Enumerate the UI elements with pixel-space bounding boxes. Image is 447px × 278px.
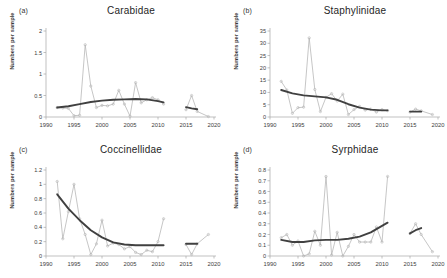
svg-text:1.2: 1.2 — [34, 167, 42, 173]
svg-text:0.3: 0.3 — [258, 221, 266, 227]
svg-text:2005: 2005 — [348, 261, 361, 267]
svg-text:0.6: 0.6 — [34, 210, 42, 216]
chart-panel-coccinellidae: (c) Coccinellidae Numbers per sample 00.… — [0, 139, 223, 278]
plot-area: 00.10.20.30.40.50.60.70.8199019952000200… — [224, 139, 447, 278]
svg-text:0: 0 — [263, 253, 266, 259]
svg-text:1990: 1990 — [264, 261, 277, 267]
svg-text:1990: 1990 — [40, 261, 53, 267]
plot-area: 0510152025303519901995200020052010201520… — [224, 0, 447, 139]
svg-text:2015: 2015 — [404, 122, 417, 128]
svg-text:5: 5 — [263, 102, 266, 108]
svg-text:2020: 2020 — [432, 122, 445, 128]
svg-text:25: 25 — [260, 53, 266, 59]
svg-text:2005: 2005 — [348, 122, 361, 128]
svg-text:2015: 2015 — [180, 261, 193, 267]
svg-text:2000: 2000 — [320, 122, 333, 128]
svg-text:2000: 2000 — [320, 261, 333, 267]
svg-text:2015: 2015 — [180, 122, 193, 128]
figure-panel-grid: (a) Carabidae Numbers per sample 00.511.… — [0, 0, 447, 278]
svg-text:0: 0 — [39, 114, 42, 120]
svg-text:2: 2 — [39, 28, 42, 34]
chart-panel-syrphidae: (d) Syrphidae Numbers per sample 00.10.2… — [224, 139, 447, 278]
svg-text:0: 0 — [263, 114, 266, 120]
svg-text:1990: 1990 — [264, 122, 277, 128]
svg-text:0.7: 0.7 — [258, 178, 266, 184]
svg-text:2005: 2005 — [124, 261, 137, 267]
svg-text:1: 1 — [39, 71, 42, 77]
svg-text:2010: 2010 — [376, 261, 389, 267]
svg-text:1995: 1995 — [292, 122, 305, 128]
svg-text:0.6: 0.6 — [258, 189, 266, 195]
svg-text:2010: 2010 — [376, 122, 389, 128]
svg-text:1995: 1995 — [68, 261, 81, 267]
svg-text:30: 30 — [260, 40, 266, 46]
svg-text:2005: 2005 — [124, 122, 137, 128]
svg-text:0.5: 0.5 — [34, 93, 42, 99]
svg-text:2010: 2010 — [152, 261, 165, 267]
svg-text:0.8: 0.8 — [34, 196, 42, 202]
svg-text:1995: 1995 — [292, 261, 305, 267]
svg-text:0.4: 0.4 — [34, 224, 42, 230]
plot-area: 00.511.521990199520002005201020152020 — [0, 0, 223, 139]
chart-panel-staphylinidae: (b) Staphylinidae Numbers per sample 051… — [224, 0, 447, 139]
svg-text:0.1: 0.1 — [258, 242, 266, 248]
svg-text:35: 35 — [260, 28, 266, 34]
svg-text:0.2: 0.2 — [34, 239, 42, 245]
svg-text:2020: 2020 — [432, 261, 445, 267]
svg-text:2020: 2020 — [208, 122, 221, 128]
svg-text:0.8: 0.8 — [258, 167, 266, 173]
svg-text:2015: 2015 — [404, 261, 417, 267]
plot-area: 00.20.40.60.811.219901995200020052010201… — [0, 139, 223, 278]
svg-text:2000: 2000 — [96, 261, 109, 267]
svg-text:1.5: 1.5 — [34, 50, 42, 56]
svg-text:0.5: 0.5 — [258, 199, 266, 205]
svg-text:20: 20 — [260, 65, 266, 71]
svg-text:0: 0 — [39, 253, 42, 259]
svg-text:1990: 1990 — [40, 122, 53, 128]
svg-text:0.4: 0.4 — [258, 210, 266, 216]
chart-panel-carabidae: (a) Carabidae Numbers per sample 00.511.… — [0, 0, 223, 139]
svg-text:2000: 2000 — [96, 122, 109, 128]
svg-text:10: 10 — [260, 89, 266, 95]
svg-text:15: 15 — [260, 77, 266, 83]
svg-text:2020: 2020 — [208, 261, 221, 267]
svg-text:1: 1 — [39, 181, 42, 187]
svg-text:0.2: 0.2 — [258, 232, 266, 238]
svg-text:1995: 1995 — [68, 122, 81, 128]
svg-text:2010: 2010 — [152, 122, 165, 128]
